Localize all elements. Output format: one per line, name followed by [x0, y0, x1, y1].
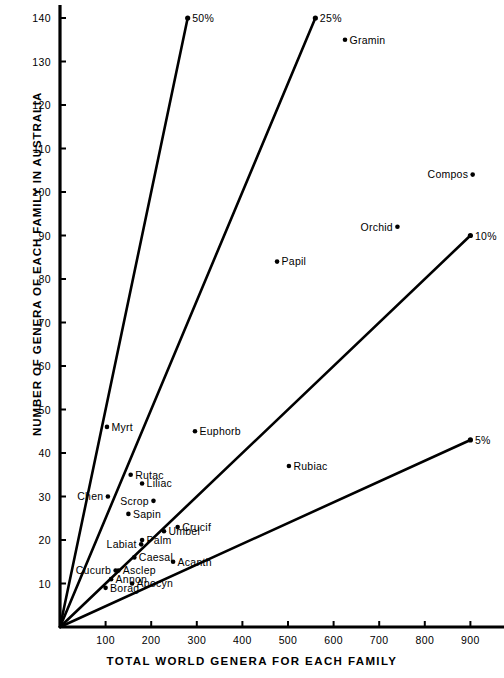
- ratio-line-endpoint: [313, 15, 318, 20]
- data-point: [140, 481, 145, 486]
- data-point: [140, 538, 145, 543]
- data-point-label: Chen: [77, 490, 103, 502]
- data-point: [139, 542, 144, 547]
- y-tick-label: 20: [39, 534, 51, 546]
- y-tick-label: 140: [32, 12, 51, 24]
- x-tick-label: 600: [324, 634, 343, 646]
- y-axis-title: NUMBER OF GENERA OF EACH FAMILY IN AUSTR…: [31, 176, 43, 436]
- data-point-label: Caesal: [139, 551, 173, 563]
- data-point-label: Orchid: [361, 221, 393, 233]
- ratio-line-label: 10%: [475, 230, 497, 242]
- ratio-line-label: 25%: [320, 12, 342, 24]
- x-tick-label: 400: [233, 634, 252, 646]
- data-point-label: Palm: [147, 534, 172, 546]
- data-point-label: Labiat: [107, 538, 137, 550]
- ratio-line-endpoint: [468, 233, 473, 238]
- data-point: [470, 172, 475, 177]
- data-point: [126, 512, 131, 517]
- ratio-line-label: 50%: [192, 12, 214, 24]
- ratio-line-endpoint: [185, 15, 190, 20]
- x-tick-label: 900: [461, 634, 480, 646]
- x-tick-label: 500: [279, 634, 298, 646]
- ratio-lines-group: 50%25%10%5%: [60, 12, 497, 627]
- x-tick-label: 300: [187, 634, 206, 646]
- data-point-label: Euphorb: [199, 425, 240, 437]
- data-point-label: Gramin: [350, 34, 386, 46]
- y-tick-label: 30: [39, 491, 51, 503]
- data-point: [128, 472, 133, 477]
- data-point-label: Acanth: [178, 556, 212, 568]
- ratio-line-endpoint: [468, 437, 473, 442]
- data-point: [105, 425, 110, 430]
- ratio-line-label: 5%: [475, 434, 491, 446]
- data-point-label: Apocyn: [137, 577, 174, 589]
- data-point-label: Liliac: [147, 477, 172, 489]
- y-tick-label: 40: [39, 447, 51, 459]
- data-point-label: Myrt: [111, 421, 132, 433]
- data-points-group: GraminComposOrchidPapilEuphorbMyrtRubiac…: [76, 34, 475, 594]
- x-tick-label: 100: [96, 634, 115, 646]
- chart-figure: 1020304050607080901001101201301401002003…: [0, 0, 504, 678]
- data-point-label: Rubiac: [293, 460, 327, 472]
- y-tick-label: 130: [32, 56, 51, 68]
- data-point: [151, 499, 156, 504]
- data-point: [106, 494, 111, 499]
- data-point: [132, 555, 137, 560]
- data-point: [395, 225, 400, 230]
- axes-group: 1020304050607080901001101201301401002003…: [32, 5, 504, 646]
- data-point: [275, 259, 280, 264]
- data-point-label: Borag: [110, 582, 139, 594]
- data-point-label: Compos: [428, 168, 469, 180]
- data-point: [103, 586, 108, 591]
- data-point-label: Scrop: [120, 495, 149, 507]
- data-point-label: Sapin: [133, 508, 161, 520]
- data-point: [193, 429, 198, 434]
- ratio-line-5: [60, 440, 470, 627]
- data-point: [287, 464, 292, 469]
- scatter-plot-canvas: 1020304050607080901001101201301401002003…: [0, 0, 504, 678]
- x-tick-label: 200: [142, 634, 161, 646]
- data-point-label: Papil: [282, 255, 307, 267]
- data-point: [171, 559, 176, 564]
- x-tick-label: 800: [415, 634, 434, 646]
- data-point: [343, 37, 348, 42]
- y-tick-label: 10: [39, 578, 51, 590]
- data-point-label: Umbel: [168, 525, 200, 537]
- x-tick-label: 700: [370, 634, 389, 646]
- data-point-label: Cucurb: [76, 564, 111, 576]
- x-axis-title: TOTAL WORLD GENERA FOR EACH FAMILY: [0, 655, 504, 667]
